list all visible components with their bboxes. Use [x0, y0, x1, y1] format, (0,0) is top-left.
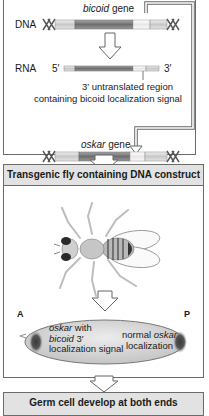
arrow-to-germ-cells	[90, 376, 118, 392]
banner-text: Germ cell develop at both ends	[29, 397, 177, 408]
normal-word: normal	[122, 329, 154, 340]
posterior-label: P	[184, 309, 190, 319]
oskar-italic: oskar	[154, 329, 177, 340]
posterior-annotation: normal oskar localization	[122, 330, 177, 351]
germ-cell-banner: Germ cell develop at both ends	[3, 392, 204, 416]
three-prime: 3′	[74, 333, 84, 344]
bicoid-italic: bicoid	[49, 333, 74, 344]
with-word: with	[72, 322, 92, 333]
oskar-italic: oskar	[49, 322, 72, 333]
localization-text: localization	[122, 341, 177, 352]
anterior-annotation: oskar with bicoid 3′ localization signal	[49, 323, 123, 355]
anterior-pole-plasm	[29, 331, 43, 353]
localization-signal-text: localization signal	[49, 344, 123, 355]
anterior-label: A	[17, 309, 24, 319]
